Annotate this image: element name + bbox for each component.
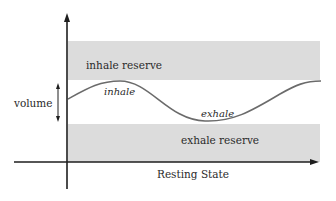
resting-state-diagram: inhale reserve exhale reserve inhale exh… (0, 0, 336, 201)
inhale-curve-label: inhale (104, 86, 135, 97)
x-axis-label: Resting State (157, 168, 229, 180)
volume-arrow-up-icon (56, 83, 60, 89)
exhale-reserve-label: exhale reserve (181, 134, 259, 146)
inhale-reserve-label: inhale reserve (86, 59, 162, 71)
volume-arrow-down-icon (56, 116, 60, 122)
y-axis-arrow-icon (64, 13, 70, 22)
y-axis-label: volume (13, 97, 53, 109)
exhale-curve-label: exhale (201, 108, 234, 119)
